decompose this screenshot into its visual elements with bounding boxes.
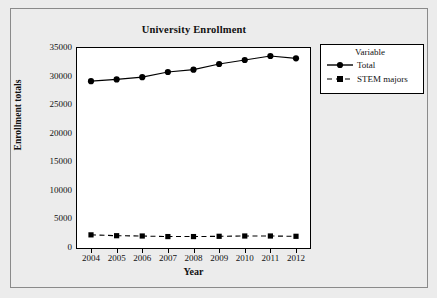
- data-point-marker: [217, 234, 222, 239]
- data-point-marker: [293, 55, 299, 61]
- data-point-marker: [242, 233, 247, 238]
- x-tick-mark: [245, 249, 246, 253]
- x-tick-mark: [117, 249, 118, 253]
- data-point-marker: [190, 67, 196, 73]
- chart-figure: University Enrollment Enrollment totals …: [0, 0, 437, 298]
- data-point-marker: [88, 232, 93, 237]
- x-tick-mark: [168, 249, 169, 253]
- data-point-marker: [88, 78, 94, 84]
- x-tick-mark: [296, 249, 297, 253]
- y-tick-label: 0: [30, 243, 72, 252]
- y-axis-title: Enrollment totals: [13, 60, 23, 170]
- data-point-marker: [165, 69, 171, 75]
- y-tick-label: 30000: [30, 72, 72, 81]
- x-tick-mark: [91, 249, 92, 253]
- plot-area: [76, 47, 311, 249]
- data-point-marker: [191, 234, 196, 239]
- legend-entry-stem-majors: STEM majors: [325, 72, 419, 86]
- data-point-marker: [114, 76, 120, 82]
- data-point-marker: [139, 74, 145, 80]
- y-tick-label: 5000: [30, 214, 72, 223]
- chart-title: University Enrollment: [76, 24, 312, 35]
- x-tick-mark: [194, 249, 195, 253]
- y-tick-label: 25000: [30, 100, 72, 109]
- y-tick-label: 35000: [30, 43, 72, 52]
- x-tick-label: 2012: [281, 253, 311, 263]
- data-point-marker: [267, 53, 273, 59]
- data-point-marker: [293, 234, 298, 239]
- data-point-marker: [140, 233, 145, 238]
- legend: Variable Total STEM majors: [320, 44, 424, 94]
- legend-key-dashed-square-icon: [325, 73, 355, 85]
- legend-key-solid-circle-icon: [325, 59, 355, 71]
- legend-label-stem-majors: STEM majors: [355, 74, 408, 84]
- y-tick-label: 20000: [30, 129, 72, 138]
- legend-entry-total: Total: [325, 58, 419, 72]
- y-axis-ticks: 05000100001500020000250003000035000: [26, 0, 72, 298]
- x-tick-mark: [219, 249, 220, 253]
- data-point-marker: [268, 233, 273, 238]
- data-point-marker: [242, 57, 248, 63]
- legend-label-total: Total: [355, 60, 375, 70]
- y-tick-label: 10000: [30, 186, 72, 195]
- legend-title: Variable: [325, 47, 419, 57]
- plot-series-svg: [77, 48, 310, 248]
- data-point-marker: [114, 233, 119, 238]
- x-axis-title: Year: [76, 266, 311, 277]
- y-tick-label: 15000: [30, 157, 72, 166]
- data-point-marker: [165, 234, 170, 239]
- x-tick-mark: [270, 249, 271, 253]
- data-point-marker: [216, 61, 222, 67]
- x-tick-mark: [142, 249, 143, 253]
